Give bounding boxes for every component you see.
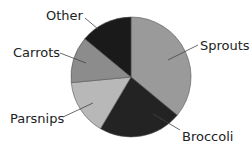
leader-line-other	[85, 18, 98, 29]
label-sprouts: Sprouts	[200, 38, 250, 53]
label-parsnips: Parsnips	[10, 111, 64, 126]
label-other: Other	[46, 8, 84, 23]
label-broccoli: Broccoli	[182, 129, 233, 144]
pie-chart: Sprouts Broccoli Parsnips Carrots Other	[0, 0, 251, 145]
label-carrots: Carrots	[13, 45, 60, 60]
pie-slices	[71, 17, 191, 137]
